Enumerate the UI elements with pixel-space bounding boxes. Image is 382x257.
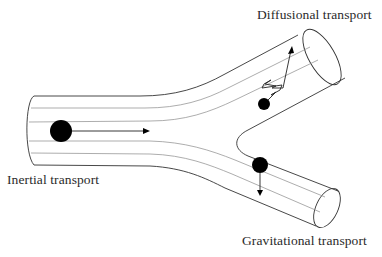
tube-drawing [0, 0, 382, 257]
gravitational-particle [252, 157, 268, 173]
upper-branch-outer-edge [34, 35, 298, 96]
inertial-particle-group [50, 120, 150, 142]
carina-edge [237, 78, 345, 191]
arrow-down-icon [257, 190, 263, 196]
arrow-up-icon [288, 46, 294, 54]
gravitational-particle-group [252, 157, 268, 196]
lower-branch-end-cap [308, 184, 346, 231]
upper-branch-end-cap [295, 24, 349, 91]
label-gravitational-transport: Gravitational transport [242, 233, 367, 249]
label-inertial-transport: Inertial transport [7, 172, 99, 188]
parent-tube-end-cap [27, 96, 34, 165]
arrow-right-icon [143, 128, 150, 134]
diffusional-particle-group [258, 46, 294, 110]
inertial-particle [50, 120, 72, 142]
airway-bifurcation-diagram: Diffusional transport Inertial transport… [0, 0, 382, 257]
label-diffusional-transport: Diffusional transport [257, 7, 372, 23]
